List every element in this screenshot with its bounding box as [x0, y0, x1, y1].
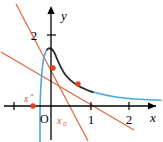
figure-canvas: y x 2 1 2 O x * x 0 [0, 0, 163, 142]
x-star-label-base: x [23, 93, 29, 104]
x-tick-label-1: 1 [88, 112, 95, 127]
x-zero-label-subscript: 0 [63, 120, 67, 128]
tangent-line-at-x0 [16, 4, 88, 141]
x-zero-label-base: x [56, 115, 62, 126]
tangent-lines-group [1, 4, 134, 141]
newton-method-figure: y x 2 1 2 O x * x 0 [0, 0, 163, 142]
x-star-label-superscript: * [30, 92, 34, 100]
y-axis-label: y [59, 8, 67, 23]
x-axis-arrowhead [148, 102, 156, 109]
function-curve-group [40, 48, 161, 142]
x-tick-label-2: 2 [126, 112, 133, 127]
x-zero-label: x 0 [56, 115, 67, 128]
root-point-x-star [30, 103, 35, 108]
iterate-point-x1-on-curve [75, 81, 80, 86]
origin-label: O [40, 112, 49, 126]
x-axis-label: x [149, 110, 156, 125]
iterate-point-x0-on-curve [50, 65, 55, 70]
y-tick-label-2: 2 [31, 28, 38, 43]
tangent-line-at-x1 [1, 52, 134, 130]
y-axis-arrowhead [47, 6, 54, 14]
axes-group [4, 6, 156, 140]
iterate-points-group [30, 65, 80, 108]
x-star-label: x * [23, 92, 34, 104]
